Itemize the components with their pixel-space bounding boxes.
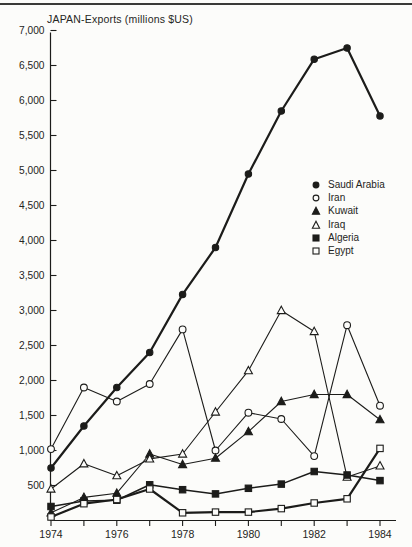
- open-circle-icon: [310, 192, 322, 204]
- filled-triangle-marker-icon: [310, 390, 318, 397]
- open-square-marker-icon: [245, 509, 251, 515]
- filled-square-marker-icon: [48, 503, 54, 509]
- filled-triangle-icon: [310, 205, 322, 217]
- filled-square-marker-icon: [245, 485, 251, 491]
- open-triangle-marker-icon: [310, 327, 318, 334]
- filled-triangle-marker-icon: [376, 415, 384, 422]
- y-axis-tick-label: 2,500: [19, 340, 45, 351]
- chart-legend: Saudi ArabiaIranKuwaitIraqAlgeriaEgypt: [310, 180, 385, 256]
- open-square-marker-icon: [212, 509, 218, 515]
- open-triangle-marker-icon: [376, 462, 384, 469]
- y-axis-tick-label: 7,000: [19, 25, 45, 36]
- open-square-marker-icon: [147, 486, 153, 492]
- filled-square-marker-icon: [344, 472, 350, 478]
- filled-square-icon: [310, 232, 322, 244]
- open-circle-marker-icon: [344, 322, 351, 329]
- open-circle-glyph: [313, 195, 319, 201]
- filled-circle-icon: [310, 179, 322, 191]
- x-axis-tick-label: 1980: [237, 528, 261, 540]
- open-triangle-marker-icon: [80, 460, 88, 467]
- filled-circle-marker-icon: [377, 113, 383, 119]
- filled-circle-glyph: [313, 182, 319, 188]
- open-square-marker-icon: [179, 510, 185, 516]
- y-axis-tick-label: 5,000: [19, 165, 45, 176]
- open-square-marker-icon: [81, 501, 87, 507]
- legend-label: Algeria: [328, 233, 359, 243]
- series-line-iraq: [51, 311, 380, 490]
- legend-item-saudi-arabia: Saudi Arabia: [310, 180, 385, 191]
- open-square-marker-icon: [311, 500, 317, 506]
- filled-circle-marker-icon: [147, 349, 153, 355]
- y-axis-tick-label: 5,500: [19, 130, 45, 141]
- legend-item-kuwait: Kuwait: [310, 206, 385, 217]
- filled-triangle-glyph: [312, 208, 319, 215]
- y-axis-tick-label: 4,000: [19, 235, 45, 246]
- legend-label: Egypt: [328, 246, 354, 256]
- legend-label: Kuwait: [328, 206, 358, 216]
- y-axis-tick-label: 6,000: [19, 95, 45, 106]
- y-axis-tick-label: 1,000: [19, 445, 45, 456]
- y-axis-tick-label: 1,500: [19, 410, 45, 421]
- y-axis-tick-label: 4,500: [19, 200, 45, 211]
- open-circle-marker-icon: [48, 446, 55, 453]
- y-axis-tick-label: 3,500: [19, 270, 45, 281]
- line-chart-plot-area: 5001,0001,5002,0002,5003,0003,5004,0004,…: [0, 0, 412, 547]
- filled-circle-marker-icon: [278, 108, 284, 114]
- open-triangle-icon: [310, 219, 322, 231]
- open-circle-marker-icon: [179, 326, 186, 333]
- x-axis-tick-label: 1976: [105, 528, 129, 540]
- open-square-glyph: [313, 248, 319, 254]
- filled-circle-marker-icon: [48, 465, 54, 471]
- open-square-marker-icon: [344, 496, 350, 502]
- filled-circle-marker-icon: [245, 171, 251, 177]
- open-circle-marker-icon: [146, 381, 153, 388]
- open-triangle-marker-icon: [244, 366, 252, 373]
- filled-circle-marker-icon: [114, 384, 120, 390]
- scanned-chart-page: JAPAN-Exports (millions $US) 5001,0001,5…: [0, 0, 412, 547]
- y-axis-tick-label: 500: [28, 480, 45, 491]
- open-circle-marker-icon: [113, 398, 120, 405]
- legend-item-egypt: Egypt: [310, 245, 385, 256]
- filled-square-marker-icon: [212, 491, 218, 497]
- series-line-iran: [51, 325, 380, 456]
- y-axis-tick-label: 3,000: [19, 305, 45, 316]
- open-square-marker-icon: [48, 514, 54, 520]
- open-circle-marker-icon: [278, 416, 285, 423]
- x-axis-tick-label: 1974: [39, 528, 63, 540]
- legend-label: Iran: [328, 193, 345, 203]
- x-axis-tick-label: 1978: [171, 528, 195, 540]
- x-axis-tick-label: 1982: [303, 528, 327, 540]
- legend-item-iran: Iran: [310, 193, 385, 204]
- y-axis-tick-label: 6,500: [19, 60, 45, 71]
- open-square-marker-icon: [278, 505, 284, 511]
- filled-triangle-marker-icon: [212, 454, 220, 461]
- filled-square-marker-icon: [179, 487, 185, 493]
- legend-label: Iraq: [328, 220, 345, 230]
- axes: [51, 33, 397, 521]
- open-square-icon: [310, 245, 322, 257]
- open-circle-marker-icon: [81, 384, 88, 391]
- x-axis-tick-label: 1984: [368, 528, 392, 540]
- filled-circle-marker-icon: [311, 56, 317, 62]
- filled-circle-marker-icon: [81, 423, 87, 429]
- filled-circle-marker-icon: [179, 291, 185, 297]
- filled-square-marker-icon: [377, 477, 383, 483]
- open-triangle-glyph: [312, 221, 319, 228]
- legend-item-iraq: Iraq: [310, 219, 385, 230]
- open-circle-marker-icon: [377, 402, 384, 409]
- open-square-marker-icon: [114, 496, 120, 502]
- y-axis-tick-label: 2,000: [19, 375, 45, 386]
- filled-square-marker-icon: [311, 468, 317, 474]
- filled-circle-marker-icon: [344, 45, 350, 51]
- legend-item-algeria: Algeria: [310, 232, 385, 243]
- filled-circle-marker-icon: [212, 244, 218, 250]
- legend-label: Saudi Arabia: [328, 180, 385, 190]
- open-circle-marker-icon: [311, 453, 318, 460]
- open-square-marker-icon: [377, 445, 383, 451]
- open-triangle-marker-icon: [277, 306, 285, 313]
- filled-square-marker-icon: [278, 481, 284, 487]
- filled-square-glyph: [313, 235, 319, 241]
- open-circle-marker-icon: [245, 409, 252, 416]
- filled-triangle-marker-icon: [343, 390, 351, 397]
